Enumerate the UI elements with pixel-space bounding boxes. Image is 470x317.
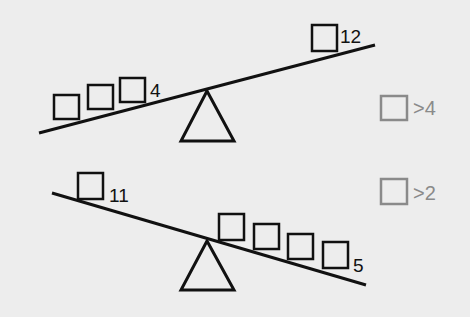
- bottom-left-label: 11: [109, 186, 129, 205]
- bottom-fulcrum-icon: [181, 241, 234, 290]
- bottom-left-box-1: [78, 173, 103, 199]
- top-fulcrum-icon: [181, 91, 234, 141]
- bottom-right-box-2: [254, 224, 279, 249]
- bottom-right-box-1: [219, 214, 244, 240]
- bottom-scale: [52, 173, 366, 290]
- top-left-box-1: [54, 95, 79, 119]
- bottom-right-box-3: [288, 234, 313, 259]
- top-right-box-1: [312, 25, 337, 51]
- top-left-box-3: [120, 78, 145, 102]
- bottom-hint-label: >2: [413, 183, 436, 203]
- diagram-canvas: [0, 0, 470, 317]
- top-scale: [39, 25, 375, 141]
- top-hint-box: [381, 96, 407, 120]
- top-left-label: 4: [150, 81, 161, 100]
- bottom-hint-box: [381, 179, 407, 204]
- bottom-right-label: 5: [353, 256, 364, 275]
- top-right-label: 12: [340, 27, 361, 46]
- top-hint-label: >4: [413, 98, 436, 118]
- top-left-box-2: [88, 85, 113, 109]
- bottom-right-box-4: [323, 242, 348, 268]
- bottom-beam: [52, 193, 366, 285]
